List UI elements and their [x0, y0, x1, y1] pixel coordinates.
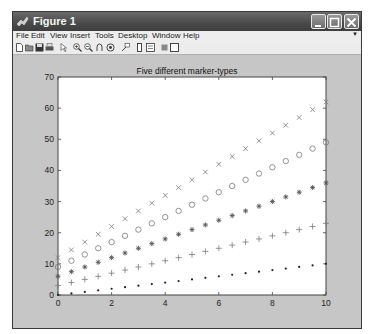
- figure-canvas: Five different marker-types 010203040506…: [13, 55, 361, 328]
- data-point: [270, 199, 275, 204]
- data-point: [149, 241, 154, 246]
- y-tick-label: 10: [45, 259, 55, 269]
- menu-tools[interactable]: Tools: [95, 31, 114, 40]
- figure-window: Figure 1 File Edit View Insert Tools Des…: [12, 11, 362, 329]
- new-figure-icon[interactable]: [15, 43, 24, 52]
- print-icon[interactable]: [45, 43, 54, 52]
- data-point: [216, 218, 221, 223]
- zoom-in-icon[interactable]: [73, 43, 82, 52]
- data-point: [203, 222, 208, 227]
- data-point: [163, 236, 168, 241]
- y-tick-label: 30: [45, 197, 55, 207]
- axes[interactable]: 0102030405060700246810: [13, 55, 361, 330]
- data-point: [190, 227, 195, 232]
- close-button[interactable]: [344, 14, 359, 29]
- data-point: [271, 269, 273, 271]
- data-point: [82, 264, 87, 269]
- data-point: [204, 277, 206, 279]
- open-file-icon[interactable]: [25, 43, 34, 52]
- maximize-button[interactable]: [327, 14, 342, 29]
- menu-view[interactable]: View: [50, 31, 67, 40]
- data-point: [230, 213, 235, 218]
- data-point: [136, 246, 141, 251]
- data-point: [245, 272, 247, 274]
- menu-window[interactable]: Window: [152, 31, 180, 40]
- data-point: [57, 294, 59, 296]
- hide-plot-tools-icon[interactable]: [160, 43, 169, 52]
- data-point: [324, 180, 329, 185]
- menu-file[interactable]: File: [16, 31, 29, 40]
- pan-icon[interactable]: [95, 43, 104, 52]
- data-point: [96, 260, 101, 265]
- data-point: [176, 232, 181, 237]
- x-tick-label: 0: [56, 298, 61, 308]
- title-bar[interactable]: Figure 1: [13, 12, 361, 31]
- data-point: [69, 269, 74, 274]
- data-point: [297, 190, 302, 195]
- data-point: [111, 288, 113, 290]
- menu-insert[interactable]: Insert: [70, 31, 90, 40]
- data-point: [191, 278, 193, 280]
- y-tick-label: 50: [45, 134, 55, 144]
- menu-overflow-icon[interactable]: ▼: [352, 31, 358, 37]
- figure-toolbar: [13, 42, 361, 55]
- maximize-icon: [328, 16, 341, 29]
- edit-plot-arrow-icon[interactable]: [59, 43, 68, 52]
- x-tick-label: 8: [270, 298, 275, 308]
- data-point: [97, 289, 99, 291]
- data-point: [56, 274, 61, 279]
- data-point: [325, 263, 327, 265]
- x-tick-label: 10: [321, 298, 331, 308]
- window-title: Figure 1: [33, 15, 76, 27]
- data-point: [164, 281, 166, 283]
- data-point: [298, 266, 300, 268]
- data-point: [84, 291, 86, 293]
- y-tick-label: 60: [45, 103, 55, 113]
- rotate-3d-icon[interactable]: [106, 43, 115, 52]
- save-icon[interactable]: [35, 43, 44, 52]
- y-tick-label: 70: [45, 72, 55, 82]
- minimize-button[interactable]: [311, 14, 326, 29]
- data-point: [70, 292, 72, 294]
- menu-help[interactable]: Help: [183, 31, 199, 40]
- data-point: [218, 275, 220, 277]
- menu-edit[interactable]: Edit: [31, 31, 45, 40]
- menu-desktop[interactable]: Desktop: [118, 31, 147, 40]
- data-point: [257, 204, 262, 209]
- data-point: [124, 286, 126, 288]
- data-point: [178, 280, 180, 282]
- y-tick-label: 40: [45, 165, 55, 175]
- data-point: [231, 274, 233, 276]
- data-point: [151, 283, 153, 285]
- y-tick-label: 20: [45, 228, 55, 238]
- data-point: [123, 250, 128, 255]
- data-point: [310, 185, 315, 190]
- data-point: [285, 267, 287, 269]
- data-point: [312, 264, 314, 266]
- data-point: [137, 285, 139, 287]
- data-point: [258, 271, 260, 273]
- insert-legend-icon[interactable]: [146, 43, 155, 52]
- menu-bar: File Edit View Insert Tools Desktop Wind…: [13, 31, 361, 42]
- data-point: [109, 255, 114, 260]
- data-point: [243, 208, 248, 213]
- data-cursor-icon[interactable]: [121, 43, 130, 52]
- minimize-icon: [312, 16, 325, 29]
- data-point: [283, 194, 288, 199]
- x-tick-label: 4: [163, 298, 168, 308]
- show-plot-tools-icon[interactable]: [170, 43, 179, 52]
- x-tick-label: 6: [216, 298, 221, 308]
- matlab-logo-icon: [16, 15, 29, 28]
- close-icon: [345, 16, 358, 29]
- x-tick-label: 2: [109, 298, 114, 308]
- zoom-out-icon[interactable]: [84, 43, 93, 52]
- y-tick-label: 0: [49, 290, 54, 300]
- insert-colorbar-icon[interactable]: [135, 43, 144, 52]
